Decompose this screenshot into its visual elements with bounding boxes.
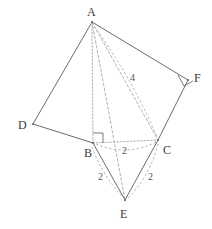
edge-A-C [92, 22, 158, 140]
vertex-label-E: E [120, 208, 127, 220]
vertex-dot-A [91, 21, 93, 23]
vertex-label-F: F [194, 72, 201, 84]
figure-canvas [0, 0, 212, 229]
edge-A-B [92, 22, 93, 143]
arc-B-E [92, 147, 123, 197]
solid-edge-group [33, 22, 188, 200]
vertex-label-D: D [18, 119, 27, 131]
length-label-BE: 2 [98, 172, 103, 182]
vertex-label-A: A [87, 6, 96, 18]
geometry-figure: ABCDEF 4222 [0, 0, 212, 229]
vertex-dot-B [92, 142, 94, 144]
edge-C-E [125, 140, 158, 200]
vertex-dot-D [32, 123, 34, 125]
length-label-AC: 4 [130, 73, 135, 83]
edge-A-E [92, 22, 125, 200]
length-label-CE: 2 [148, 172, 153, 182]
edge-D-B [33, 124, 93, 143]
right-angle-B [93, 133, 103, 143]
vertex-label-C: C [163, 144, 171, 156]
vertex-dot-F [187, 79, 189, 81]
vertex-dot-E [124, 199, 126, 201]
length-label-BC: 2 [122, 146, 127, 156]
vertex-label-B: B [84, 147, 92, 159]
edge-A-D [33, 22, 92, 124]
arc-C-E [128, 144, 158, 198]
vertex-dot-C [157, 139, 159, 141]
edge-F-C [158, 80, 188, 140]
edge-A-F [92, 22, 188, 80]
